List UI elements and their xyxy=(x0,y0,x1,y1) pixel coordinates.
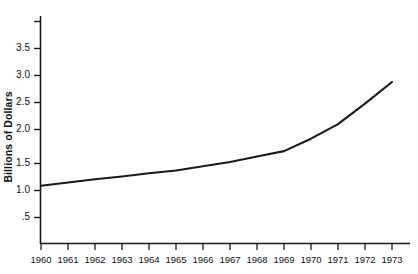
y-tick-label-2-5: 2.5 xyxy=(4,97,30,107)
chart-plot-area xyxy=(0,0,418,274)
line-chart: Billions of Dollars 3.5 3.0 2.5 2.0 1.5 … xyxy=(0,0,418,274)
x-tick-label-1973: 1973 xyxy=(375,255,409,265)
y-tick-label-1-5: 1.5 xyxy=(4,158,30,168)
y-tick-label-2-0: 2.0 xyxy=(4,124,30,134)
x-axis-ticks xyxy=(41,244,392,250)
y-tick-label-0-5: .5 xyxy=(4,212,30,222)
y-tick-label-1-0: 1.0 xyxy=(4,185,30,195)
y-tick-label-3-0: 3.0 xyxy=(4,70,30,80)
y-tick-label-3-5: 3.5 xyxy=(4,43,30,53)
data-line-series xyxy=(41,82,392,186)
